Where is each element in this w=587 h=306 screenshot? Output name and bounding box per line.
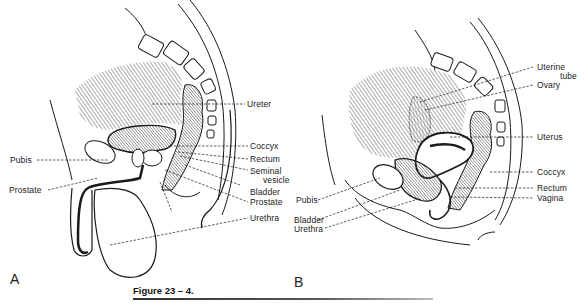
panel-letter-a: A xyxy=(10,271,19,287)
label-pubis-a: Pubis xyxy=(10,156,32,165)
label-urethra-b: Urethra xyxy=(294,225,323,234)
label-tube-b: tube xyxy=(560,72,577,81)
figure-caption: Figure 23 – 4. xyxy=(133,285,194,296)
label-vesicle-a: vesicle xyxy=(263,176,290,185)
label-prostate-right-a: Prostate xyxy=(250,198,282,207)
panel-letter-b: B xyxy=(294,274,303,290)
panel-b-drawing xyxy=(322,18,522,245)
caption-rule xyxy=(133,298,433,300)
label-coccyx-a: Coccyx xyxy=(250,142,278,151)
label-rectum-b: Rectum xyxy=(537,184,567,193)
label-pubis-b: Pubis xyxy=(296,196,318,205)
label-rectum-a: Rectum xyxy=(250,155,280,164)
anatomy-figure: Ureter Coccyx Rectum Seminal vesicle Bla… xyxy=(0,0,587,306)
panel-a-drawing xyxy=(50,0,236,277)
label-ureter-a: Ureter xyxy=(247,100,271,109)
label-prostate-left-a: Prostate xyxy=(9,186,41,195)
label-ovary-b: Ovary xyxy=(537,81,560,90)
label-vagina-b: Vagina xyxy=(537,194,563,203)
label-uterus-b: Uterus xyxy=(537,133,563,142)
label-coccyx-b: Coccyx xyxy=(537,168,565,177)
label-bladder-a: Bladder xyxy=(250,188,280,197)
pelvis-illustrations xyxy=(0,0,587,306)
label-urethra-a: Urethra xyxy=(250,214,279,223)
